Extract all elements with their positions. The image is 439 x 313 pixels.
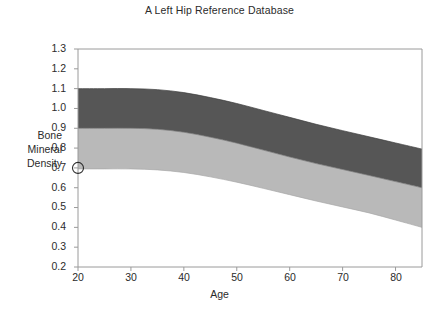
band-group [78,89,422,228]
plot-area [0,0,439,313]
chart-container: A Left Hip Reference Database Bone Miner… [0,0,439,313]
